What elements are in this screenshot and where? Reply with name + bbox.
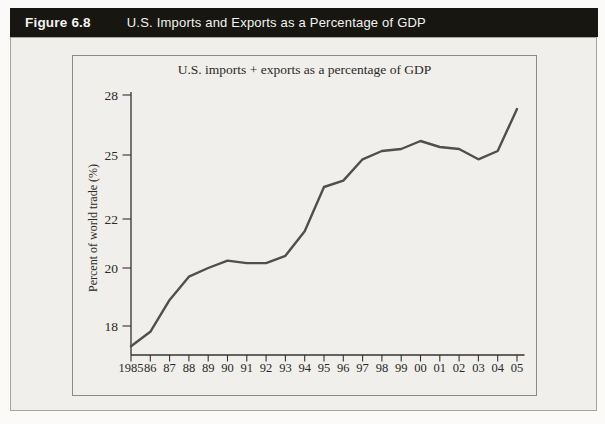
line-chart: 1820222528198586878889909192939495969798… (0, 0, 605, 424)
x-tick-label: 95 (318, 361, 331, 375)
x-tick-label: 98 (376, 361, 389, 375)
x-tick-label: 86 (144, 361, 157, 375)
x-tick-label: 89 (202, 361, 215, 375)
x-tick-label: 91 (241, 361, 254, 375)
x-tick-label: 90 (221, 361, 234, 375)
data-line (131, 109, 517, 346)
x-tick-label: 88 (183, 361, 196, 375)
x-tick-label: 87 (163, 361, 176, 375)
figure-panel: Figure 6.8 U.S. Imports and Exports as a… (0, 0, 605, 424)
x-tick-label: 04 (491, 361, 504, 375)
x-tick-label: 02 (453, 361, 466, 375)
x-tick-label: 1985 (119, 361, 144, 375)
x-tick-label: 03 (472, 361, 485, 375)
x-tick-label: 97 (356, 361, 369, 375)
x-tick-label: 99 (395, 361, 408, 375)
x-tick-label: 94 (298, 361, 311, 375)
y-tick-label: 28 (105, 88, 119, 103)
y-tick-label: 20 (105, 261, 119, 276)
x-tick-label: 96 (337, 361, 350, 375)
y-tick-label: 25 (105, 148, 119, 163)
x-tick-label: 05 (511, 361, 524, 375)
x-tick-label: 93 (279, 361, 292, 375)
x-tick-label: 00 (414, 361, 427, 375)
x-tick-label: 92 (260, 361, 273, 375)
y-axis-title: Percent of world trade (%) (86, 164, 100, 292)
y-tick-label: 18 (105, 319, 119, 334)
x-tick-label: 01 (434, 361, 447, 375)
y-tick-label: 22 (105, 212, 119, 227)
